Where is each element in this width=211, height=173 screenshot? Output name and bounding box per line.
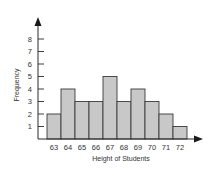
x-ticks-group: 63646566676869707172 — [50, 143, 184, 152]
bar-66 — [89, 102, 103, 140]
bars-group — [47, 77, 187, 140]
y-tick-label: 1 — [28, 122, 32, 131]
x-tick-label: 65 — [78, 143, 86, 152]
y-ticks-group: 12345678 — [28, 35, 44, 132]
bar-63 — [47, 114, 61, 139]
x-tick-label: 64 — [64, 143, 72, 152]
y-tick-label: 4 — [28, 85, 32, 94]
x-tick-label: 66 — [92, 143, 100, 152]
bar-71 — [159, 114, 173, 139]
x-axis-title: Height of Students — [92, 155, 150, 163]
bar-72 — [173, 127, 187, 140]
x-tick-label: 69 — [134, 143, 142, 152]
bar-70 — [145, 102, 159, 140]
y-tick-label: 3 — [28, 97, 32, 106]
x-tick-label: 68 — [120, 143, 128, 152]
bar-65 — [75, 102, 89, 140]
x-tick-label: 70 — [148, 143, 156, 152]
x-tick-label: 67 — [106, 143, 114, 152]
y-axis-arrow-icon — [35, 17, 42, 26]
bar-67 — [103, 77, 117, 140]
y-tick-label: 7 — [28, 47, 32, 56]
histogram-chart: 12345678 63646566676869707172 Height of … — [0, 0, 211, 173]
y-tick-label: 2 — [28, 110, 32, 119]
x-tick-label: 71 — [162, 143, 170, 152]
y-tick-label: 5 — [28, 72, 32, 81]
y-tick-label: 6 — [28, 60, 32, 69]
bar-64 — [61, 89, 75, 139]
y-axis-title: Frequency — [13, 68, 21, 102]
y-tick-label: 8 — [28, 35, 32, 44]
x-tick-label: 63 — [50, 143, 58, 152]
bar-68 — [117, 102, 131, 140]
x-tick-label: 72 — [176, 143, 184, 152]
x-axis-arrow-icon — [194, 136, 203, 143]
bar-69 — [131, 89, 145, 139]
